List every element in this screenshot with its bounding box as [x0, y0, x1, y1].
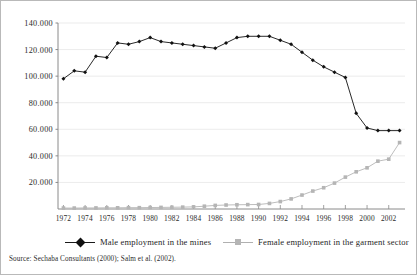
x-axis-tick-label: 1976	[99, 214, 115, 223]
data-point	[246, 34, 250, 38]
data-point	[235, 203, 239, 207]
x-axis-tick-label: 1986	[207, 214, 223, 223]
y-axis-tick-label: 80.000	[29, 98, 53, 107]
data-point	[94, 206, 98, 210]
data-point	[170, 205, 174, 209]
data-point	[203, 204, 207, 208]
data-point	[202, 45, 206, 49]
legend-label-male: Male employment in the mines	[100, 237, 211, 247]
y-axis-tick-label: 20.000	[29, 178, 53, 187]
data-point	[246, 203, 250, 207]
data-point	[300, 193, 304, 197]
data-point	[137, 40, 141, 44]
data-point	[333, 181, 337, 185]
x-axis-tick-label: 1984	[186, 214, 202, 223]
data-point	[376, 159, 380, 163]
data-point	[159, 40, 163, 44]
data-point	[278, 38, 282, 42]
x-axis-tick-label: 1982	[164, 214, 180, 223]
data-point	[127, 206, 131, 210]
data-point	[181, 205, 185, 209]
data-point	[116, 206, 120, 210]
y-axis-tick-label: 120.000	[24, 45, 53, 54]
x-axis-labels: 1972197419761978198019821984198619881990…	[58, 214, 405, 228]
x-axis-tick-label: 1990	[251, 214, 267, 223]
x-axis-tick-label: 1972	[56, 214, 72, 223]
legend-label-female: Female employment in the garment sector	[258, 237, 409, 247]
data-point	[322, 65, 326, 69]
square-marker-icon	[223, 236, 253, 248]
data-point	[354, 170, 358, 174]
data-point	[170, 41, 174, 45]
y-axis-tick-label: 100.000	[24, 72, 53, 81]
legend-item-female: Female employment in the garment sector	[223, 235, 409, 249]
data-point	[224, 203, 228, 207]
data-point	[289, 197, 293, 201]
x-axis-tick-label: 1992	[273, 214, 289, 223]
data-point	[344, 175, 348, 179]
data-point	[148, 36, 152, 40]
data-point	[333, 70, 337, 74]
data-point	[105, 206, 109, 210]
data-point	[192, 44, 196, 48]
data-point	[192, 205, 196, 209]
y-axis-tick-label: 140.000	[24, 19, 53, 28]
data-point	[213, 204, 217, 208]
data-point	[148, 206, 152, 210]
data-point	[278, 200, 282, 204]
data-point	[268, 202, 272, 206]
y-axis-labels: 140.000120.000100.00080.00060.00040.0002…	[1, 1, 53, 275]
x-axis-tick-label: 1980	[142, 214, 158, 223]
chart-legend: Male employment in the mines Female empl…	[58, 235, 408, 251]
data-point	[398, 141, 402, 145]
data-point	[257, 34, 261, 38]
source-note: Source: Sechaba Consultants (2000); Salm…	[9, 255, 176, 263]
data-point	[322, 186, 326, 190]
x-axis-tick-label: 1988	[229, 214, 245, 223]
chart-svg	[58, 23, 405, 209]
data-point	[235, 36, 239, 40]
diamond-marker-icon	[65, 236, 95, 248]
y-axis-tick-label: 60.000	[29, 125, 53, 134]
series-line-female	[63, 143, 399, 209]
x-axis-tick-label: 2000	[359, 214, 375, 223]
legend-item-male: Male employment in the mines	[65, 235, 211, 249]
data-point	[126, 42, 130, 46]
x-axis-tick-label: 1998	[338, 214, 354, 223]
data-point	[387, 157, 391, 161]
data-point	[267, 34, 271, 38]
data-point	[257, 203, 261, 207]
series-line-male	[63, 36, 399, 130]
x-axis-tick-label: 2002	[381, 214, 397, 223]
data-point	[83, 206, 87, 210]
data-point	[138, 206, 142, 210]
x-axis-tick-label: 1974	[77, 214, 93, 223]
data-point	[224, 41, 228, 45]
data-point	[365, 166, 369, 170]
figure-container: 140.000120.000100.00080.00060.00040.0002…	[0, 0, 417, 275]
data-point	[62, 206, 66, 210]
data-point	[159, 206, 163, 210]
x-axis-tick-label: 1996	[316, 214, 332, 223]
data-point	[311, 189, 315, 193]
plot-area	[58, 23, 405, 209]
data-point	[72, 206, 76, 210]
y-axis-tick-label: 40.000	[29, 151, 53, 160]
x-axis-tick-label: 1994	[294, 214, 310, 223]
data-point	[181, 42, 185, 46]
x-axis-tick-label: 1978	[121, 214, 137, 223]
